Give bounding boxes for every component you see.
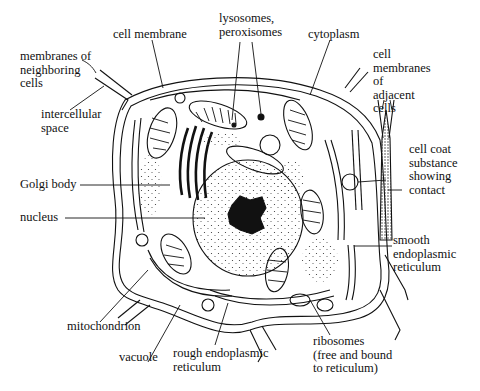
label-lysosomes-peroxisomes: lysosomes, peroxisomes xyxy=(219,12,282,39)
cell-diagram: cell membrane lysosomes, peroxisomes cyt… xyxy=(0,0,480,391)
label-cell-membrane: cell membrane xyxy=(113,28,187,42)
contact-circle xyxy=(342,174,358,190)
label-cytoplasm: cytoplasm xyxy=(308,28,359,42)
label-adjacent-membranes: cell membranes of adjacent cells xyxy=(373,48,431,116)
label-intercellular-space: intercellular space xyxy=(41,108,101,135)
label-nucleus: nucleus xyxy=(20,211,58,225)
label-mitochondrion: mitochondrion xyxy=(67,320,141,334)
label-golgi-body: Golgi body xyxy=(20,178,77,192)
label-neighbor-membranes: membranes of neighboring cells xyxy=(20,50,91,91)
label-vacuole: vacuole xyxy=(119,351,158,365)
label-rough-er: rough endoplasmic reticulum xyxy=(173,347,268,374)
label-ribosomes: ribosomes (free and bound to reticulum) xyxy=(313,335,392,376)
label-cell-coat: cell coat substance showing contact xyxy=(409,143,458,197)
label-smooth-er: smooth endoplasmic reticulum xyxy=(393,234,456,275)
